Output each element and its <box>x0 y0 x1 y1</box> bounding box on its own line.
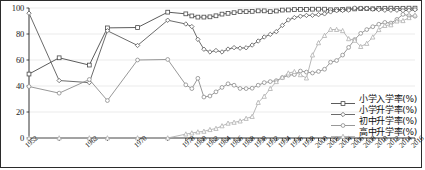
legend-label: 高中升学率(%) <box>359 125 417 138</box>
series-1 <box>27 6 417 85</box>
chart-legend: 小学入学率(%)小学升学率(%)初中升学率(%)高中升学率(%) <box>330 93 417 137</box>
legend-marker-icon <box>330 127 356 136</box>
series-2 <box>27 12 417 102</box>
series-0 <box>27 6 417 76</box>
y-tick-label: 80 <box>2 30 24 39</box>
legend-marker-icon <box>330 94 356 103</box>
y-tick-label: 100 <box>2 4 24 13</box>
y-tick-label: 60 <box>2 56 24 65</box>
y-tick-label: 40 <box>2 82 24 91</box>
y-tick-label: 20 <box>2 108 24 117</box>
chart-container: 020406080100 195219621970197819801982198… <box>0 0 422 168</box>
legend-marker-icon <box>330 116 356 125</box>
legend-marker-icon <box>330 105 356 114</box>
legend-item[interactable]: 高中升学率(%) <box>330 126 417 137</box>
y-tick-label: 0 <box>2 134 24 143</box>
